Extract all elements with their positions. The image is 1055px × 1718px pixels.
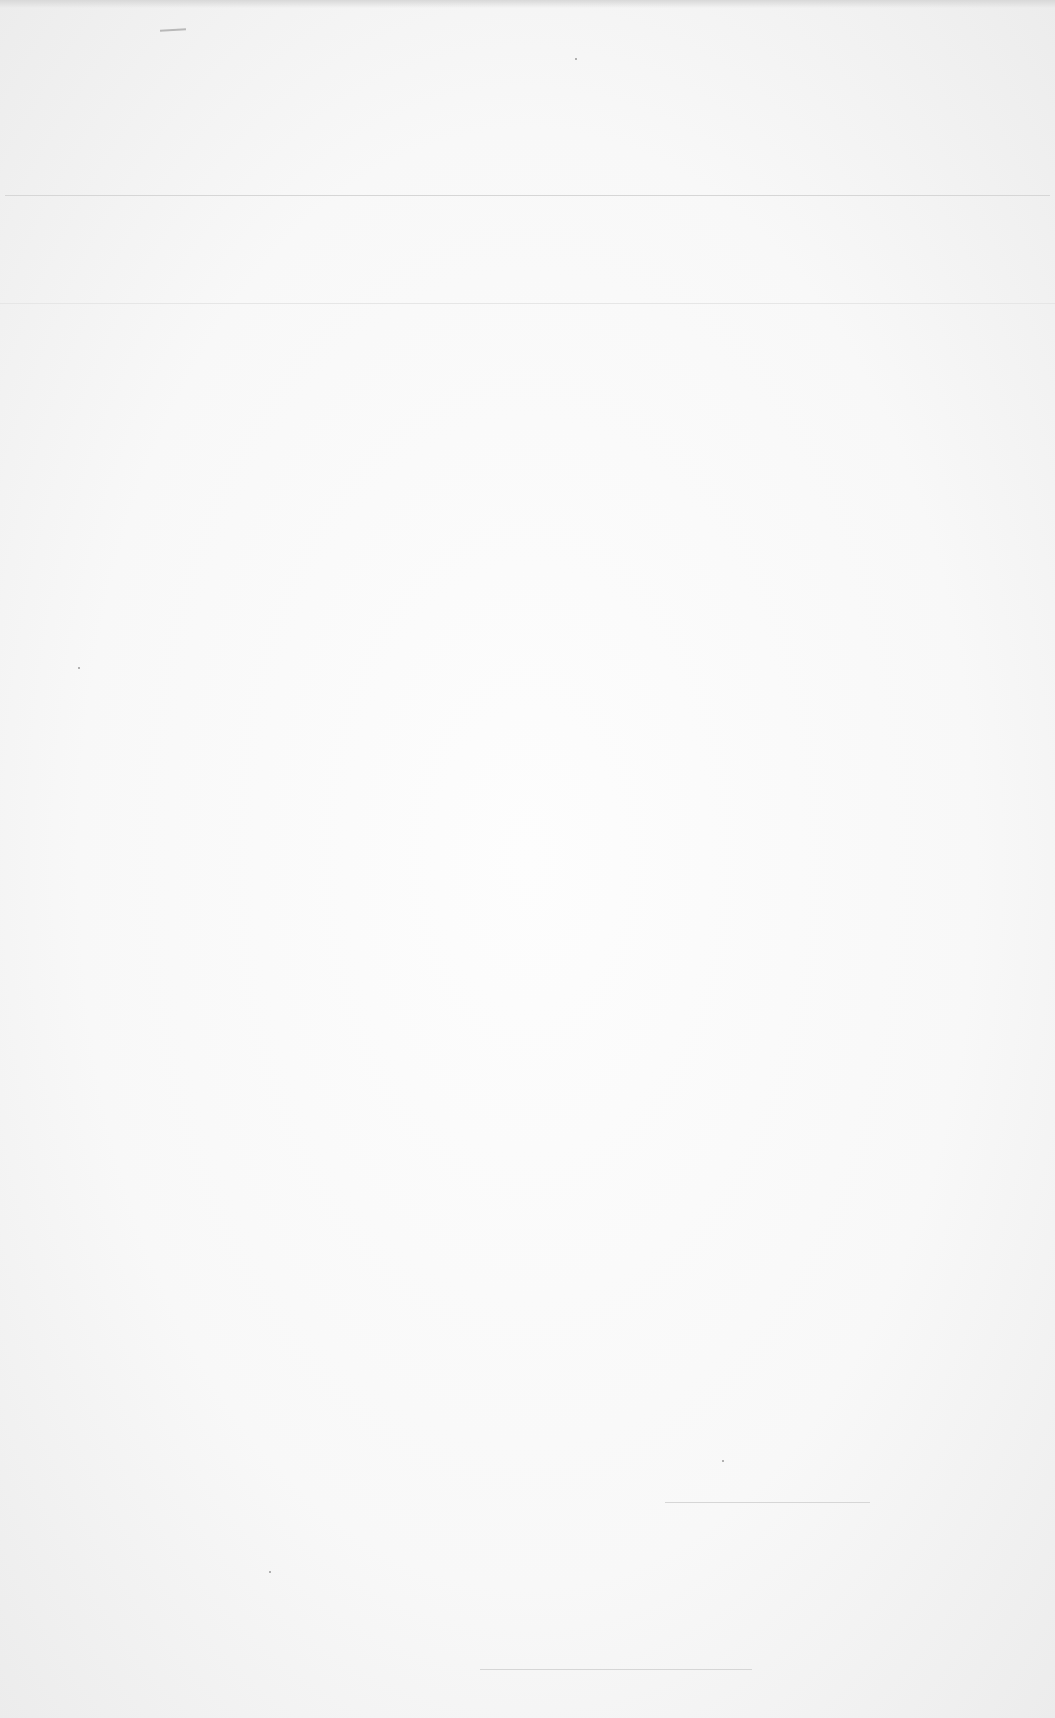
scan-edge-shadow — [0, 0, 1055, 8]
speck — [575, 58, 577, 60]
pen-mark — [160, 28, 186, 31]
header-rule — [5, 195, 1050, 196]
signature-line-bottom — [480, 1669, 752, 1670]
upper-faint-rule — [0, 303, 1055, 304]
speck — [269, 1571, 271, 1573]
scanned-page — [0, 0, 1055, 1718]
speck — [78, 667, 80, 669]
speck — [722, 1460, 724, 1462]
signature-line-right — [665, 1502, 870, 1503]
